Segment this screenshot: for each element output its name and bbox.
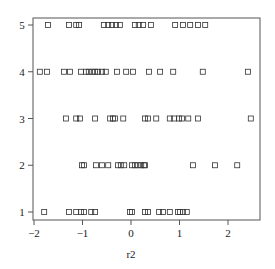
data-point <box>191 163 196 168</box>
scatter-chart: 12345 −2−1012 r2 <box>0 0 275 269</box>
data-points <box>37 23 253 215</box>
data-point <box>122 163 127 168</box>
data-point <box>80 163 85 168</box>
data-point <box>135 163 140 168</box>
data-point <box>108 116 113 121</box>
y-tick-label: 2 <box>19 159 25 171</box>
data-point <box>200 69 205 74</box>
data-point <box>158 69 163 74</box>
data-point <box>46 23 51 28</box>
data-point <box>179 116 184 121</box>
data-point <box>173 23 178 28</box>
data-point <box>94 163 99 168</box>
data-point <box>195 23 200 28</box>
data-point <box>121 116 126 121</box>
data-point <box>154 116 159 121</box>
data-point <box>64 116 69 121</box>
data-point <box>132 163 137 168</box>
data-point <box>212 163 217 168</box>
x-axis-title: r2 <box>126 248 135 260</box>
data-point <box>195 116 200 121</box>
data-point <box>180 23 185 28</box>
y-tick-label: 4 <box>19 66 25 78</box>
data-point <box>74 210 79 215</box>
data-point <box>79 69 84 74</box>
data-point <box>67 69 72 74</box>
data-point <box>186 116 191 121</box>
x-tick-label: 1 <box>177 227 183 239</box>
y-axis: 12345 <box>19 19 33 218</box>
data-point <box>177 116 182 121</box>
data-point <box>90 69 95 74</box>
data-point <box>235 163 240 168</box>
data-point <box>66 210 71 215</box>
data-point <box>143 116 148 121</box>
data-point <box>167 210 172 215</box>
data-point <box>81 210 86 215</box>
data-point <box>248 116 253 121</box>
data-point <box>115 163 120 168</box>
y-tick-label: 5 <box>19 19 25 31</box>
x-tick-label: 0 <box>128 227 134 239</box>
data-point <box>203 23 208 28</box>
data-point <box>86 69 91 74</box>
data-point <box>118 163 123 168</box>
data-point <box>37 69 42 74</box>
data-point <box>112 116 117 121</box>
data-point <box>171 69 176 74</box>
data-point <box>176 210 181 215</box>
data-point <box>62 69 67 74</box>
y-tick-label: 1 <box>19 206 25 218</box>
data-point <box>145 210 150 215</box>
x-tick-label: −2 <box>28 227 40 239</box>
data-point <box>77 23 82 28</box>
y-tick-label: 3 <box>19 113 25 125</box>
data-point <box>146 69 151 74</box>
data-point <box>99 163 104 168</box>
data-point <box>93 69 98 74</box>
x-tick-label: 2 <box>225 227 231 239</box>
data-point <box>124 69 129 74</box>
data-point <box>66 23 71 28</box>
data-point <box>145 116 150 121</box>
x-tick-label: −1 <box>77 227 89 239</box>
data-point <box>129 163 134 168</box>
data-point <box>45 69 50 74</box>
data-point <box>129 210 134 215</box>
data-point <box>188 23 193 28</box>
x-axis: −2−1012 <box>28 220 231 239</box>
data-point <box>128 210 133 215</box>
data-point <box>130 69 135 74</box>
data-point <box>42 210 47 215</box>
data-point <box>111 116 116 121</box>
data-point <box>177 210 182 215</box>
data-point <box>93 116 98 121</box>
data-point <box>79 210 84 215</box>
data-point <box>74 23 79 28</box>
plot-frame <box>33 18 260 220</box>
data-point <box>245 69 250 74</box>
data-point <box>106 163 111 168</box>
data-point <box>114 69 119 74</box>
data-point <box>83 69 88 74</box>
data-point <box>148 23 153 28</box>
data-point <box>143 210 148 215</box>
data-point <box>81 163 86 168</box>
